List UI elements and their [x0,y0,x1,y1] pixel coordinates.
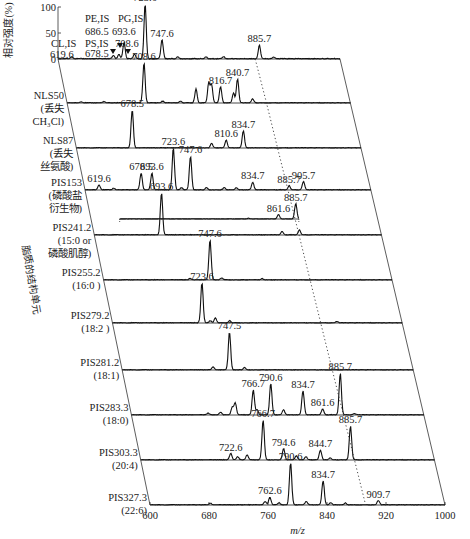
spectrum-panel-PIS255.2: 747.6 [104,228,392,280]
peak-label: 678.5 [120,98,144,109]
spectrum-panel-PIS281.2: 747.5 [122,320,413,370]
x-tick-label: 840 [319,510,335,521]
panel-sublabel-2: 磷酸肌醇) [48,247,92,260]
panel-sublabel-2: 衍生物) [49,202,83,215]
peak-label: 885.7 [328,361,352,372]
mass-spectra-figure: 723.6747.6885.7708.6816.7840.7678.5810.6… [0,0,470,539]
panel-sublabel: (丢失 [41,102,65,115]
top-annotation: PG,IS [118,13,144,24]
panel-sublabel-2: 丝氨酸) [40,160,74,173]
spectra-panels: 723.6747.6885.7708.6816.7840.7678.5810.6… [58,0,445,505]
panel-labels: NLS50(丢失CH₃Cl)NLS87(丢失丝氨酸)PIS153(磷酸盐衍生物)… [32,13,147,517]
x-tick-label: 600 [142,510,158,521]
x-tick-label: 680 [201,510,217,521]
panel-label: PIS279.2 [71,310,110,321]
peak-label: 619.6 [87,173,111,184]
peak-label: 747.6 [150,28,174,39]
peak-label: 723.6 [133,0,157,3]
spectrum-trace [150,464,445,505]
peak-label: 840.7 [226,67,250,78]
panel-label: NLS50 [34,90,64,101]
panel-label: PIS281.2 [80,357,119,368]
spectrum-panel-PIS283.3: 766.7790.6834.7861.6885.7 [131,361,423,415]
peak-label: 762.6 [258,485,282,496]
peak-label: 794.6 [272,437,296,448]
panel-sublabel: (18:1) [93,370,119,382]
spectrum-trace [104,241,392,280]
panel-label: PIS283.3 [90,402,129,413]
panel-label: NLS87 [43,135,73,146]
panel-label: PIS327.3 [108,492,147,503]
panel-label: PIS255.2 [62,267,101,278]
y-tick-label: 100 [40,2,56,13]
panel-sublabel: (15:0 or [58,235,92,247]
peak-label: 747.6 [179,144,203,155]
panel-sublabel: (20:4) [112,460,138,472]
peak-label: 790.6 [259,372,283,383]
peak-label: 909.7 [367,489,391,500]
top-annotation: 686.5 [85,26,109,37]
peak-label: 834.7 [241,170,265,181]
spectrum-trace [85,149,371,190]
peak-label: 766.7 [251,408,275,419]
marker-triangle-icon [110,49,116,54]
peak-label: 885.7 [339,414,363,425]
side-axis-title: 脂质的结构单元 [20,244,44,315]
peak-label: 790.6 [279,451,303,462]
y-tick-label: 0 [51,54,56,65]
panel-sublabel: (16:0 ) [72,280,101,292]
y-axis-title: 相对强度(%) [2,3,15,58]
spectrum-panel-PIS327.3: 762.6790.6834.7909.7 [150,451,445,505]
panel-label: PIS303.3 [99,447,138,458]
panel-sublabel-2: CH₃Cl) [32,116,64,128]
stacked-spectra-chart: 723.6747.6885.7708.6816.7840.7678.5810.6… [0,0,470,539]
top-annotation: 693.6 [112,26,136,37]
spectrum-panel-NLS87: 678.5810.6834.7 [76,98,361,148]
inset-peak-label: 885.7 [284,192,308,203]
x-tick-label: 1000 [435,510,456,521]
panel-label: PIS153 [51,177,82,188]
peak-label: 810.6 [214,128,238,139]
peak-label: 693.6 [140,161,164,172]
peak-label: 693.6 [150,181,174,192]
peak-label: 861.6 [311,397,335,408]
spectrum-panel-PIS279.2: 723.6 [112,271,402,323]
peak-label: 844.7 [309,438,333,449]
peak-label: 747.5 [218,320,242,331]
inset-peak-label: 861.6 [267,203,291,214]
y-tick-label: 50 [46,28,57,39]
peak-label: 708.6 [132,51,156,62]
x-tick-label: 920 [378,510,394,521]
spectrum-trace [94,194,381,235]
peak-label: 722.6 [219,442,243,453]
panel-sublabel: (18:0) [103,415,129,427]
peak-label: 723.6 [190,271,214,282]
top-annotation: PE,IS [85,13,109,24]
right-frame-line [340,59,445,505]
panel-sublabel: (18:2 ) [81,323,110,335]
spectrum-trace [122,334,413,370]
panel-sublabel: (磷酸盐 [49,189,83,202]
panel-label: PIS241.2 [52,222,91,233]
peak-label: 905.7 [292,170,316,181]
peak-label: 834.7 [232,119,256,130]
peak-label: 747.6 [198,228,222,239]
peak-label: 885.7 [248,33,272,44]
peak-label: 834.7 [311,469,335,480]
top-annotation: 678.5 [85,48,109,59]
top-annotation: CL,IS [51,38,77,49]
spectrum-trace [113,284,403,323]
x-axis-title: m/z [290,525,305,536]
panel-sublabel: (丢失 [50,147,74,160]
x-tick-label: 760 [260,510,276,521]
peak-label: 834.7 [291,379,315,390]
